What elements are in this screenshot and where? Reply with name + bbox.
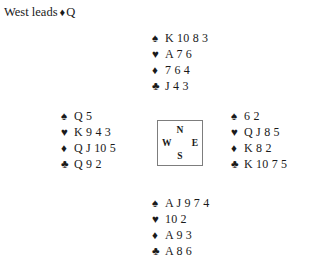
club-icon: ♣ — [152, 78, 165, 94]
club-icon: ♣ — [61, 156, 74, 172]
hand-row: ♠A J 9 7 4 — [152, 195, 209, 211]
card-list: Q 9 2 — [74, 156, 102, 172]
hand-row: ♦Q J 10 5 — [61, 140, 116, 156]
hand-row: ♥K 9 4 3 — [61, 124, 116, 140]
card-list: 10 2 — [165, 211, 187, 227]
lead-text: West leads — [4, 5, 58, 19]
card-list: Q J 8 5 — [244, 124, 280, 140]
hand-row: ♣A 8 6 — [152, 243, 209, 259]
diamond-icon: ♦ — [58, 6, 67, 18]
card-list: Q 5 — [74, 108, 92, 124]
spade-icon: ♠ — [152, 30, 165, 46]
hand-row: ♥Q J 8 5 — [231, 124, 287, 140]
hand-row: ♦7 6 4 — [152, 62, 208, 78]
hand-row: ♦K 8 2 — [231, 140, 287, 156]
diamond-icon: ♦ — [231, 140, 244, 156]
card-list: K 9 4 3 — [74, 124, 111, 140]
card-list: K 10 8 3 — [165, 30, 208, 46]
compass-box: N W E S — [157, 120, 203, 166]
club-icon: ♣ — [152, 243, 165, 259]
hand-row: ♠Q 5 — [61, 108, 116, 124]
spade-icon: ♠ — [152, 195, 165, 211]
hand-row: ♥A 7 6 — [152, 46, 208, 62]
spade-icon: ♠ — [231, 108, 244, 124]
hand-south: ♠A J 9 7 4 ♥10 2 ♦A 9 3 ♣A 8 6 — [152, 195, 209, 259]
diamond-icon: ♦ — [152, 62, 165, 78]
hand-west: ♠Q 5 ♥K 9 4 3 ♦Q J 10 5 ♣Q 9 2 — [61, 108, 116, 172]
card-list: A 9 3 — [165, 227, 192, 243]
hand-east: ♠6 2 ♥Q J 8 5 ♦K 8 2 ♣K 10 7 5 — [231, 108, 287, 172]
card-list: Q J 10 5 — [74, 140, 116, 156]
card-list: A 7 6 — [165, 46, 192, 62]
card-list: A 8 6 — [165, 243, 192, 259]
card-list: A J 9 7 4 — [165, 195, 209, 211]
spade-icon: ♠ — [61, 108, 74, 124]
card-list: 7 6 4 — [165, 62, 190, 78]
card-list: K 10 7 5 — [244, 156, 287, 172]
lead-instruction: West leads♦Q — [4, 5, 75, 20]
card-list: J 4 3 — [165, 78, 189, 94]
hand-row: ♣Q 9 2 — [61, 156, 116, 172]
diamond-icon: ♦ — [152, 227, 165, 243]
hand-row: ♣J 4 3 — [152, 78, 208, 94]
heart-icon: ♥ — [152, 46, 165, 62]
card-list: 6 2 — [244, 108, 260, 124]
hand-row: ♥10 2 — [152, 211, 209, 227]
heart-icon: ♥ — [61, 124, 74, 140]
heart-icon: ♥ — [231, 124, 244, 140]
club-icon: ♣ — [231, 156, 244, 172]
hand-row: ♠6 2 — [231, 108, 287, 124]
heart-icon: ♥ — [152, 211, 165, 227]
lead-card-rank: Q — [66, 5, 75, 19]
diamond-icon: ♦ — [61, 140, 74, 156]
hand-row: ♠K 10 8 3 — [152, 30, 208, 46]
hand-north: ♠K 10 8 3 ♥A 7 6 ♦7 6 4 ♣J 4 3 — [152, 30, 208, 94]
hand-row: ♦A 9 3 — [152, 227, 209, 243]
compass-south-label: S — [158, 151, 202, 161]
card-list: K 8 2 — [244, 140, 272, 156]
hand-row: ♣K 10 7 5 — [231, 156, 287, 172]
